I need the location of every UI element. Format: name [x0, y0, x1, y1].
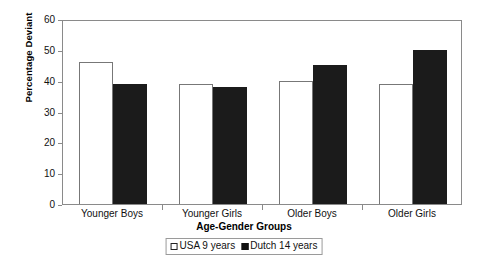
bar-group: [163, 21, 263, 204]
legend: USA 9 yearsDutch 14 years: [166, 238, 323, 255]
legend-label: Dutch 14 years: [250, 240, 317, 252]
y-axis-title: Percentage Deviant: [23, 0, 34, 138]
bar-group: [63, 21, 163, 204]
legend-swatch-usa-icon: [171, 243, 178, 250]
bar-usa: [379, 84, 413, 204]
plot-area: [62, 20, 462, 205]
x-axis-category-label: Younger Girls: [162, 208, 262, 219]
bar-dutch: [113, 84, 147, 204]
x-axis-title: Age-Gender Groups: [0, 221, 488, 232]
bar-usa: [79, 62, 113, 204]
bar-usa: [179, 84, 213, 204]
y-axis-tick-label: 0: [29, 200, 55, 210]
x-axis-category-label: Older Girls: [362, 208, 462, 219]
y-axis-tick-label: 10: [29, 169, 55, 179]
bar-group: [363, 21, 463, 204]
legend-swatch-dutch-icon: [241, 243, 248, 250]
bars-container: [63, 21, 461, 204]
x-axis-category-label: Older Boys: [262, 208, 362, 219]
y-axis-tick-mark: [58, 205, 62, 206]
bar-dutch: [413, 50, 447, 204]
bar-dutch: [213, 87, 247, 204]
legend-label: USA 9 years: [180, 240, 236, 252]
x-axis-tick-mark: [162, 205, 163, 210]
bar-dutch: [313, 65, 347, 204]
legend-item: Dutch 14 years: [241, 240, 317, 252]
y-axis-tick-label: 20: [29, 138, 55, 148]
x-axis-tick-mark: [262, 205, 263, 210]
x-axis-tick-mark: [362, 205, 363, 210]
x-axis-category-label: Younger Boys: [62, 208, 162, 219]
bar-usa: [279, 81, 313, 204]
bar-chart-figure: Percentage Deviant 6050403020100Younger …: [0, 0, 488, 265]
bar-group: [263, 21, 363, 204]
legend-item: USA 9 years: [171, 240, 236, 252]
